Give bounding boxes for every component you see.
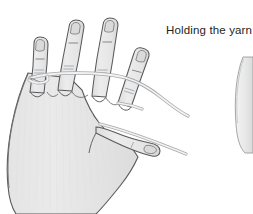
- little-finger-nail: [36, 40, 45, 52]
- middle-finger: [92, 18, 118, 102]
- secondary-hand-illustration-cropped: [235, 57, 253, 153]
- caption-holding-the-yarn: Holding the yarn: [166, 24, 252, 38]
- ring-finger-nail: [70, 23, 80, 35]
- middle-finger-nail: [104, 21, 114, 33]
- figure-holding-the-yarn: Holding the yarn: [0, 0, 253, 214]
- hand-figure: [7, 18, 188, 214]
- ring-finger: [58, 20, 84, 96]
